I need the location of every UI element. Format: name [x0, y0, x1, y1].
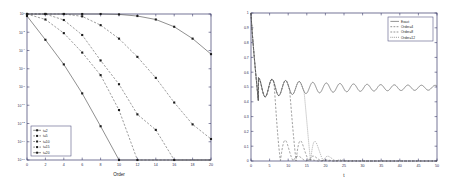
left-series-marker — [118, 13, 120, 15]
right-x-tick-label: 20 — [323, 164, 327, 168]
right-y-tick-label: 0.8 — [244, 41, 249, 45]
left-y-tick-label: 100 — [20, 12, 26, 16]
left-series-marker — [118, 109, 120, 111]
right-x-tick-label: 15 — [305, 164, 309, 168]
left-x-tick-label: 20 — [209, 163, 213, 167]
left-series-marker — [118, 38, 120, 40]
right-x-tick-label: 30 — [361, 164, 365, 168]
left-y-tick-label: 10-8 — [19, 85, 26, 90]
left-x-tick-label: 8 — [100, 163, 102, 167]
left-series-marker — [100, 74, 102, 76]
left-series-marker — [155, 77, 157, 79]
left-series-marker — [155, 129, 157, 131]
left-y-tick-label: 10-10 — [18, 103, 26, 108]
right-x-tick-label: 40 — [398, 164, 402, 168]
left-legend-marker — [36, 129, 38, 131]
left-legend-label: t=15 — [43, 145, 50, 149]
left-series-marker — [100, 24, 102, 26]
left-series-line — [27, 14, 211, 54]
left-series-marker — [173, 101, 175, 103]
right-y-tick-label: 0.2 — [244, 130, 249, 134]
left-series-marker — [63, 32, 65, 34]
left-series-marker — [63, 19, 65, 21]
left-series-marker — [118, 83, 120, 85]
left-x-axis-label: Order — [113, 172, 125, 177]
right-x-tick-label: 25 — [342, 164, 346, 168]
left-legend-marker — [36, 152, 38, 154]
right-y-tick-label: 0.5 — [244, 85, 249, 89]
left-plot-svg: 02468101214161820 10010-210-410-610-810-… — [0, 0, 225, 185]
left-legend-label: t=2 — [43, 129, 48, 133]
left-series-marker — [44, 39, 46, 41]
left-series-marker — [63, 13, 65, 15]
left-series-marker — [136, 159, 138, 161]
left-series-marker — [81, 13, 83, 15]
left-x-tick-label: 6 — [81, 163, 83, 167]
left-series-marker — [173, 159, 175, 161]
right-y-tick-label: 0.6 — [244, 71, 249, 75]
right-plot-panel: 05101520253035404550 00.10.20.30.40.50.6… — [225, 0, 451, 185]
right-legend-label: Order=12 — [401, 36, 415, 40]
right-legend-label: Order=8 — [401, 30, 413, 34]
left-series-marker — [81, 15, 83, 17]
left-x-tick-label: 18 — [191, 163, 195, 167]
left-series-marker — [26, 15, 28, 17]
right-y-tick-label: 0.3 — [244, 115, 249, 119]
right-x-axis-label: t — [343, 173, 345, 178]
left-x-tick-label: 12 — [135, 163, 139, 167]
left-series-marker — [44, 18, 46, 20]
right-x-tick-label: 0 — [250, 164, 252, 168]
left-series-marker — [63, 63, 65, 65]
left-series-marker — [26, 13, 28, 15]
left-series-marker — [100, 125, 102, 127]
right-legend: ExactOrder=4Order=8Order=12 — [388, 17, 433, 41]
right-y-tick-label: 0.4 — [244, 100, 249, 104]
left-plot-panel: 02468101214161820 10010-210-410-610-810-… — [0, 0, 225, 185]
right-legend-label: Order=4 — [401, 25, 413, 29]
left-x-tick-label: 4 — [63, 163, 65, 167]
right-plot-svg: 05101520253035404550 00.10.20.30.40.50.6… — [225, 0, 451, 185]
left-x-tick-label: 14 — [154, 163, 158, 167]
right-x-tick-label: 10 — [286, 164, 290, 168]
left-y-tick-label: 10-2 — [19, 30, 26, 35]
left-series-marker — [210, 53, 212, 55]
left-series-marker — [173, 26, 175, 28]
left-x-tick-label: 2 — [44, 163, 46, 167]
left-legend-marker — [36, 141, 38, 143]
left-y-tick-label: 10-6 — [19, 67, 26, 72]
left-series-marker — [155, 18, 157, 20]
left-series-marker — [210, 138, 212, 140]
left-x-tick-label: 10 — [117, 163, 121, 167]
left-series-marker — [81, 51, 83, 53]
left-series-marker — [81, 92, 83, 94]
right-legend-label: Exact — [401, 20, 409, 24]
left-legend-marker — [36, 135, 38, 137]
left-series-marker — [192, 123, 194, 125]
left-x-tick-label: 16 — [172, 163, 176, 167]
left-y-tick-label: 10-4 — [19, 48, 26, 53]
right-y-tick-label: 0.7 — [244, 56, 249, 60]
left-y-tick-label: 10-12 — [18, 121, 26, 126]
left-series-marker — [136, 15, 138, 17]
right-x-tick-label: 50 — [435, 164, 439, 168]
left-x-tick-label: 0 — [26, 163, 28, 167]
left-series-marker — [118, 159, 120, 161]
right-x-tick-label: 35 — [379, 164, 383, 168]
right-x-tick-label: 45 — [416, 164, 420, 168]
right-x-tick-label: 5 — [269, 164, 271, 168]
left-series-marker — [100, 59, 102, 61]
left-legend-marker — [36, 146, 38, 148]
left-legend-label: t=10 — [43, 140, 50, 144]
left-y-tick-label: 10-14 — [18, 140, 26, 145]
left-series-marker — [81, 34, 83, 36]
left-legend: t=2t=5t=10t=15t=20 — [31, 126, 71, 156]
left-legend-label: t=20 — [43, 151, 50, 155]
right-y-tick-label: 0 — [247, 159, 249, 163]
left-series-marker — [136, 113, 138, 115]
right-y-tick-label: 0.9 — [244, 26, 249, 30]
left-series-marker — [192, 38, 194, 40]
left-legend-label: t=5 — [43, 134, 48, 138]
right-y-tick-label: 0.1 — [244, 145, 249, 149]
left-series-marker — [44, 13, 46, 15]
left-series-marker — [100, 13, 102, 15]
